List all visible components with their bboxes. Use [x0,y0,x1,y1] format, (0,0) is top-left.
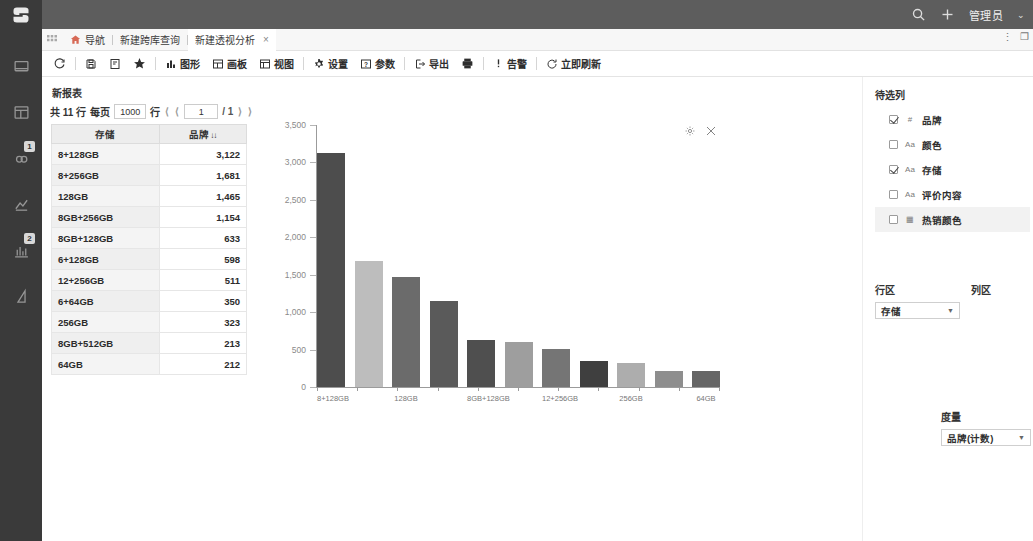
last-page-button[interactable]: ⟩ [247,106,253,117]
field-item[interactable]: ▦热销颜色 [875,207,1030,232]
per-page-input[interactable] [114,104,146,119]
sidebar-item-charts[interactable]: 2 [0,227,42,273]
field-item[interactable]: #品牌 [875,107,1030,132]
column-header-label: 品牌 [189,129,209,140]
next-page-button[interactable]: ⟩ [237,106,243,117]
field-checkbox[interactable] [889,190,898,199]
bar[interactable] [392,277,420,387]
field-item[interactable]: Aa颜色 [875,132,1030,157]
page-number-input[interactable] [184,104,218,119]
refresh-button[interactable] [48,53,72,75]
prev-page-button[interactable]: ⟨ [174,106,180,117]
bar[interactable] [542,349,570,387]
table-row[interactable]: 8+128GB3,122 [52,144,247,165]
table-row[interactable]: 128GB1,465 [52,186,247,207]
x-axis-ticks [317,387,720,392]
view-button[interactable]: 视图 [253,53,300,75]
toolbar-divider [75,57,76,70]
user-label[interactable]: 管理员 [969,7,1004,23]
toolbar-label: 图形 [180,56,200,71]
sidebar-item-cloud[interactable]: 1 [0,135,42,181]
bar[interactable] [505,342,533,387]
first-page-button[interactable]: ⟨ [164,106,170,117]
field-type-icon: Aa [904,190,916,199]
tab-navigation[interactable]: 导航 [63,29,112,51]
sidebar-item-report[interactable] [0,273,42,319]
cell-storage: 6+64GB [52,291,160,312]
measure-select[interactable]: 品牌(计数) ▼ [941,429,1031,446]
bar[interactable] [355,261,383,387]
row-zone-value: 存储 [881,304,901,318]
row-zone-select[interactable]: 存储 ▼ [875,302,960,319]
bar[interactable] [317,153,345,387]
save-as-button[interactable] [103,53,127,75]
column-header-storage[interactable]: 存储 [52,125,160,144]
restore-window-icon[interactable]: ❐ [1020,31,1029,42]
svg-text:?: ? [364,60,368,67]
grid-dots-icon[interactable] [47,35,57,45]
bar[interactable] [617,363,645,387]
table-row[interactable]: 8+256GB1,681 [52,165,247,186]
sidebar-badge: 1 [24,141,35,152]
table-row[interactable]: 6+64GB350 [52,291,247,312]
field-checkbox[interactable] [889,140,898,149]
config-panel: 待选列 #品牌Aa颜色Aa存储Aa评价内容▦热销颜色 行区 存储 ▼ 列区 [862,77,1033,541]
plus-icon[interactable] [940,7,955,22]
row-total-label: 共 11 行 [50,104,86,119]
bar[interactable] [467,340,495,387]
settings-button[interactable]: 设置 [307,53,354,75]
tab-cross-db-query[interactable]: 新建跨库查询 [113,29,187,51]
bar[interactable] [580,361,608,387]
table-row[interactable]: 8GB+256GB1,154 [52,207,247,228]
gear-icon [313,58,325,70]
more-menu-icon[interactable]: ⋮ [1002,32,1013,42]
cell-storage: 64GB [52,354,160,375]
x-axis-tick [558,387,559,391]
bar[interactable] [692,371,720,387]
user-menu-caret[interactable]: ⌄ [1017,10,1025,20]
parameters-button[interactable]: ? 参数 [354,53,401,75]
app-logo[interactable] [0,0,42,29]
sidebar-item-database[interactable] [0,89,42,135]
database-icon [13,104,30,121]
bar[interactable] [430,301,458,387]
field-label: 品牌 [922,113,942,127]
bar[interactable] [655,371,683,387]
export-button[interactable]: 导出 [408,53,455,75]
column-header-brand[interactable]: 品牌↓↓ [159,125,246,144]
cell-storage: 6+128GB [52,249,160,270]
table-row[interactable]: 8GB+512GB213 [52,333,247,354]
left-icon-rail: 1 2 [0,29,42,541]
field-checkbox[interactable] [889,165,898,174]
page-total-label: / 1 [222,106,233,117]
field-checkbox[interactable] [889,115,898,124]
table-row[interactable]: 12+256GB511 [52,270,247,291]
sidebar-item-dashboard[interactable] [0,43,42,89]
field-item[interactable]: Aa存储 [875,157,1030,182]
field-checkbox[interactable] [889,215,898,224]
table-row[interactable]: 256GB323 [52,312,247,333]
tab-label: 导航 [85,32,105,47]
alert-button[interactable]: 告警 [487,53,533,75]
refresh-now-button[interactable]: 立即刷新 [540,53,607,75]
sidebar-item-analysis[interactable] [0,181,42,227]
close-icon[interactable]: × [263,34,269,45]
table-row[interactable]: 8GB+128GB633 [52,228,247,249]
x-axis-tick-label [505,394,533,403]
print-button[interactable] [455,53,480,75]
column-zone-select[interactable] [971,302,1029,319]
x-axis-tick-label: 128GB [392,394,420,403]
table-row[interactable]: 64GB212 [52,354,247,375]
table-header-row: 存储 品牌↓↓ [52,125,247,144]
canvas-button[interactable]: 画板 [206,53,253,75]
favorite-button[interactable] [127,53,152,75]
tab-pivot-analysis[interactable]: 新建透视分析 × [188,29,276,51]
search-icon[interactable] [911,7,926,22]
field-item[interactable]: Aa评价内容 [875,182,1030,207]
field-type-icon: Aa [904,165,916,174]
chart-type-button[interactable]: 图形 [159,53,206,75]
save-button[interactable] [79,53,103,75]
x-axis-tick [518,387,519,391]
table-header: 存储 品牌↓↓ [52,125,247,144]
table-row[interactable]: 6+128GB598 [52,249,247,270]
